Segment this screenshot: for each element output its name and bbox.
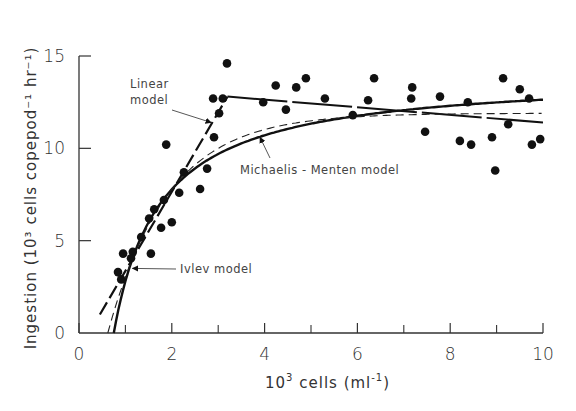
data-point	[271, 81, 280, 90]
data-point	[488, 133, 497, 142]
model-curves	[100, 97, 543, 333]
data-point	[421, 127, 430, 136]
data-point	[504, 120, 513, 129]
linear-model-plateau-line	[228, 97, 544, 123]
data-point	[119, 249, 128, 258]
data-point	[137, 233, 146, 242]
data-point	[180, 168, 189, 177]
data-point	[467, 140, 476, 149]
data-point	[407, 94, 416, 103]
data-point	[321, 94, 330, 103]
data-point	[168, 218, 177, 227]
ingestion-chart: 0246810051015 Linear model Michaelis - M…	[0, 0, 576, 411]
data-point	[150, 205, 159, 214]
y-tick-label: 10	[43, 138, 65, 158]
data-point	[456, 137, 465, 146]
data-point	[408, 83, 417, 92]
data-point	[528, 140, 537, 149]
x-tick-label: 2	[166, 344, 177, 364]
data-point	[349, 111, 358, 120]
data-point	[219, 94, 228, 103]
y-axis-title: Ingestion (10³ cells copepod⁻¹ hr⁻¹)	[22, 47, 40, 350]
x-tick-label: 8	[445, 344, 456, 364]
ivlev-model-label: Ivlev model	[180, 262, 252, 276]
linear-model-label-line1: Linear	[130, 77, 169, 91]
michaelis-menten-curve	[114, 100, 543, 333]
data-point	[536, 135, 545, 144]
data-point	[117, 275, 126, 284]
michaelis-menten-arrow	[260, 137, 270, 158]
data-point	[127, 254, 136, 263]
data-point	[175, 188, 184, 197]
x-tick-label: 4	[259, 344, 270, 364]
axes: 0246810051015	[43, 46, 553, 364]
x-tick-label: 0	[74, 344, 85, 364]
data-point	[215, 109, 224, 118]
y-tick-label: 0	[54, 323, 65, 343]
data-point	[157, 223, 166, 232]
data-point	[464, 98, 473, 107]
data-point	[147, 249, 156, 258]
data-point	[210, 133, 219, 142]
michaelis-menten-label: Michaelis - Menten model	[240, 163, 399, 177]
data-point	[364, 96, 373, 105]
linear-model-label-line2: model	[130, 93, 168, 107]
data-point	[162, 140, 171, 149]
data-point	[203, 164, 212, 173]
y-tick-label: 5	[54, 231, 65, 251]
data-point	[292, 83, 301, 92]
data-point	[302, 74, 311, 83]
x-axis-title: 103 cells (ml-1)	[265, 372, 390, 392]
data-point	[436, 92, 445, 101]
data-point	[499, 74, 508, 83]
x-tick-label: 10	[532, 344, 554, 364]
data-point	[223, 59, 232, 68]
data-point	[209, 94, 218, 103]
x-tick-label: 6	[352, 344, 363, 364]
data-point	[491, 166, 500, 175]
data-point	[259, 98, 268, 107]
data-point	[516, 85, 525, 94]
data-point	[370, 74, 379, 83]
ivlev-model-arrow	[132, 268, 176, 269]
data-point	[525, 94, 534, 103]
data-point	[145, 214, 154, 223]
y-tick-label: 15	[43, 46, 65, 66]
data-point	[160, 196, 169, 205]
data-point	[196, 185, 205, 194]
data-point	[282, 105, 291, 114]
linear-model-arrow	[172, 110, 211, 123]
